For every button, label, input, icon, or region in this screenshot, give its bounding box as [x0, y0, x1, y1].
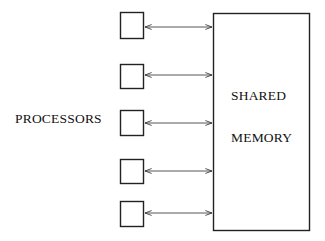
- processor-5: [121, 202, 213, 227]
- processor-box: [121, 160, 144, 184]
- processor-4: [121, 160, 213, 184]
- processor-2: [121, 65, 213, 89]
- processor-box: [121, 13, 144, 39]
- processor-3: [121, 111, 213, 136]
- shared-memory-block: [214, 14, 310, 231]
- processors-label: PROCESSORS: [15, 112, 102, 126]
- processor-box: [121, 65, 144, 89]
- processor-box: [121, 111, 144, 136]
- processor-1: [121, 13, 213, 39]
- shared-memory-label-line1: SHARED: [231, 89, 286, 103]
- shared-memory-label-line2: MEMORY: [231, 131, 292, 145]
- processor-box: [121, 202, 144, 227]
